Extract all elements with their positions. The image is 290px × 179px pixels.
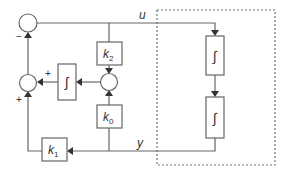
wire-y [71, 138, 215, 151]
plus-sign-left-junction-right: + [45, 68, 51, 79]
block-diagram: k2 k0 k1 ∫ ∫ ∫ u y − + + [0, 0, 290, 179]
signal-y-label: y [136, 136, 144, 150]
top-summing-junction [19, 14, 37, 32]
feedback-integrator-block: ∫ [58, 64, 76, 100]
plus-sign-left-junction-bottom: + [16, 94, 22, 105]
minus-sign-top-junction: − [16, 31, 22, 42]
arrow-into-int1 [211, 30, 219, 36]
arrow-into-left-sum [37, 78, 43, 86]
k0-block: k0 [97, 105, 122, 128]
k2-block: k2 [97, 42, 122, 65]
middle-summing-junction [101, 74, 118, 91]
signal-u-label: u [139, 8, 146, 22]
arrow-into-feedback-int [76, 78, 82, 86]
plant-integrator-1-block: ∫ [206, 36, 224, 75]
plant-integrator-2-block: ∫ [206, 97, 224, 138]
wire-k1-to-left-sum [28, 94, 42, 151]
k1-block: k1 [42, 138, 67, 161]
left-summing-junction [20, 75, 37, 92]
arrow-into-k1 [67, 147, 73, 155]
wire-u [37, 23, 215, 31]
arrow-into-int2 [211, 91, 219, 97]
arrow-into-top-sum [24, 32, 32, 38]
